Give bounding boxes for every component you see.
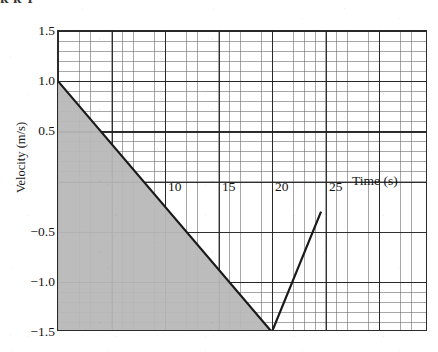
y-tick-label-neg1.5: −1.5 (9, 325, 55, 339)
y-tick-label-1.0: 1.0 (9, 74, 55, 88)
y-tick-label-1.5: 1.5 (9, 24, 55, 38)
x-tick-label-25: 25 (329, 180, 343, 194)
x-axis-title: Time (s) (352, 173, 398, 189)
y-axis-title: Velocity (m/s) (14, 103, 29, 213)
x-tick-label-10: 10 (168, 180, 182, 194)
y-tick-label-neg0.5: −0.5 (9, 225, 55, 239)
x-tick-label-15: 15 (222, 180, 236, 194)
velocity-time-graph-figure: 1.5 1.0 0.5 −0.5 −1.0 −1.5 Velocity (m/s… (0, 0, 438, 352)
x-tick-label-20: 20 (275, 180, 289, 194)
y-tick-label-neg1.0: −1.0 (9, 275, 55, 289)
